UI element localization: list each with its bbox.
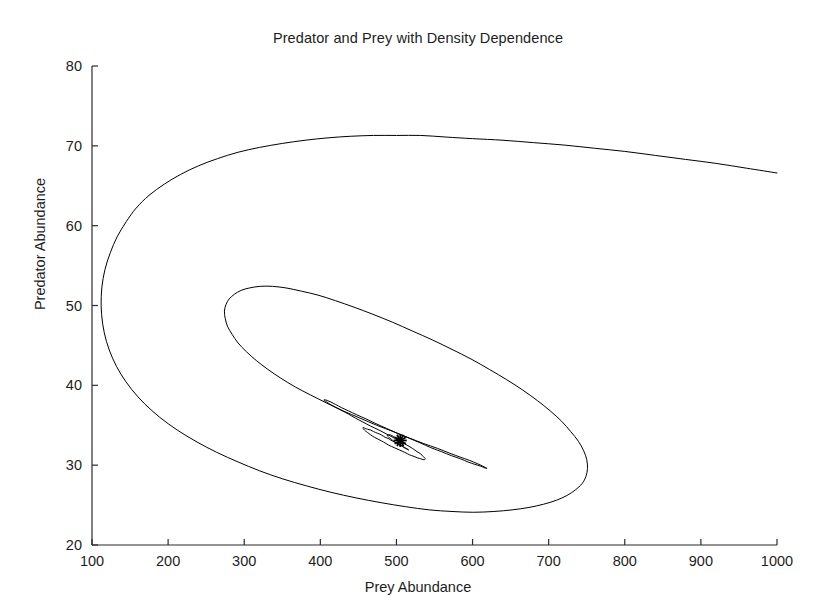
x-axis-label: Prey Abundance (0, 579, 836, 595)
axis-spines (92, 66, 777, 545)
x-axis-tick-label: 800 (613, 553, 637, 569)
x-axis-tick-label: 600 (460, 553, 484, 569)
y-axis-tick-label: 40 (38, 377, 82, 393)
series-line-trajectory (101, 135, 777, 512)
y-axis-ticks (92, 66, 98, 545)
x-axis-tick-label: 1000 (761, 553, 793, 569)
x-axis-tick-label: 900 (689, 553, 713, 569)
data-series-group (101, 135, 777, 512)
x-axis-tick-label: 300 (232, 553, 256, 569)
x-axis-ticks (92, 539, 777, 545)
x-axis-tick-label: 100 (80, 553, 104, 569)
y-axis-tick-label: 80 (38, 58, 82, 74)
x-axis-tick-label: 700 (537, 553, 561, 569)
y-axis-tick-label: 20 (38, 537, 82, 553)
y-axis-label: Predator Abundance (32, 144, 48, 344)
y-axis-tick-label: 30 (38, 457, 82, 473)
figure-canvas: Predator and Prey with Density Dependenc… (0, 0, 836, 614)
x-axis-tick-label: 400 (308, 553, 332, 569)
x-axis-tick-label: 200 (156, 553, 180, 569)
x-axis-tick-label: 500 (384, 553, 408, 569)
plot-area (0, 0, 836, 614)
